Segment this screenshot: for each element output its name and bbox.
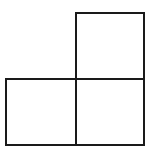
- l-shape-diagram: [0, 0, 167, 162]
- square-bottom-right: [75, 78, 145, 146]
- square-top-right: [75, 12, 145, 80]
- square-bottom-left: [5, 78, 77, 146]
